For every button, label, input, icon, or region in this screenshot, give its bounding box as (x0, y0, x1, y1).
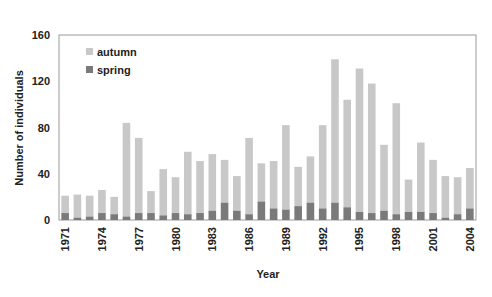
bar-spring (356, 212, 364, 220)
bar-spring (331, 203, 339, 220)
bar-spring (184, 214, 192, 220)
bar-1984 (221, 160, 229, 220)
bar-spring (282, 210, 290, 220)
legend-label-autumn: autumn (97, 46, 137, 58)
y-tick-label: 160 (32, 29, 50, 41)
x-tick-label: 2004 (464, 226, 476, 251)
bar-1992 (319, 125, 327, 220)
bar-spring (380, 211, 388, 220)
bar-1981 (184, 152, 192, 220)
bar-autumn (258, 163, 266, 201)
bar-autumn (307, 156, 315, 202)
x-tick-label: 1995 (353, 227, 365, 251)
bar-autumn (172, 177, 180, 213)
bar-1988 (270, 161, 278, 220)
bar-1989 (282, 125, 290, 220)
x-tick-label: 1974 (96, 226, 108, 251)
x-tick-label: 1971 (59, 227, 71, 251)
bar-autumn (368, 84, 376, 214)
legend: autumn spring (86, 46, 137, 76)
bar-spring (233, 211, 241, 220)
x-tick-label: 2001 (427, 227, 439, 251)
bar-spring (123, 217, 131, 220)
bar-1973 (86, 196, 94, 220)
x-tick-label: 1980 (170, 227, 182, 251)
bar-1998 (392, 103, 400, 220)
bar-autumn (86, 196, 94, 217)
bar-spring (147, 213, 155, 220)
bar-spring (61, 213, 69, 220)
bar-2003 (454, 177, 462, 220)
bar-autumn (233, 176, 241, 211)
bar-1975 (110, 197, 118, 220)
bar-autumn (454, 177, 462, 214)
bar-1997 (380, 145, 388, 220)
bar-spring (258, 202, 266, 221)
bar-autumn (405, 180, 413, 212)
bar-1978 (147, 191, 155, 220)
bar-autumn (392, 103, 400, 214)
y-axis-title: Number of individuals (13, 70, 25, 186)
legend-swatch-spring (86, 66, 93, 73)
bar-autumn (110, 197, 118, 214)
bar-1977 (135, 138, 143, 220)
y-tick-label: 80 (38, 122, 50, 134)
bar-spring (209, 211, 217, 220)
legend-swatch-autumn (86, 48, 93, 55)
bar-spring (74, 218, 82, 220)
bar-autumn (61, 196, 69, 213)
bar-1979 (159, 169, 167, 220)
y-tick-label: 120 (32, 75, 50, 87)
bar-spring (159, 215, 167, 220)
bar-2000 (417, 143, 425, 220)
bar-autumn (282, 125, 290, 209)
bar-1976 (123, 123, 131, 220)
bar-1991 (307, 156, 315, 220)
bar-spring (86, 217, 94, 220)
x-axis: 1971197419771980198319861989199219951998… (59, 226, 476, 251)
plot-frame (59, 35, 476, 220)
bar-1985 (233, 176, 241, 220)
bar-autumn (270, 161, 278, 208)
bar-spring (343, 207, 351, 220)
bar-2002 (442, 176, 450, 220)
bar-autumn (343, 100, 351, 208)
x-tick-label: 1998 (390, 227, 402, 251)
bar-spring (392, 214, 400, 220)
bar-autumn (417, 143, 425, 212)
bar-spring (466, 208, 474, 220)
stacked-bar-chart: 04080120160 1971197419771980198319861989… (0, 0, 492, 297)
bar-1994 (343, 100, 351, 220)
bar-spring (270, 208, 278, 220)
y-tick-label: 0 (44, 214, 50, 226)
bar-autumn (135, 138, 143, 213)
bar-autumn (245, 138, 253, 214)
bar-1995 (356, 69, 364, 220)
bar-autumn (98, 190, 106, 213)
bar-1999 (405, 180, 413, 220)
bar-1987 (258, 163, 266, 220)
bar-1980 (172, 177, 180, 220)
bar-autumn (331, 59, 339, 202)
bar-spring (442, 218, 450, 220)
x-tick-label: 1986 (243, 227, 255, 251)
x-tick-label: 1989 (280, 227, 292, 251)
bar-autumn (380, 145, 388, 211)
bar-spring (294, 206, 302, 220)
x-tick-label: 1983 (206, 227, 218, 251)
bar-autumn (466, 168, 474, 208)
bar-autumn (209, 154, 217, 211)
bar-spring (245, 214, 253, 220)
bar-autumn (356, 69, 364, 212)
bar-autumn (74, 195, 82, 218)
bar-spring (307, 203, 315, 220)
bar-spring (405, 212, 413, 220)
x-tick-label: 1977 (133, 227, 145, 251)
bar-spring (196, 213, 204, 220)
bar-autumn (159, 169, 167, 215)
bar-spring (319, 208, 327, 220)
bar-2004 (466, 168, 474, 220)
bar-spring (454, 214, 462, 220)
bar-autumn (196, 161, 204, 213)
bar-spring (98, 213, 106, 220)
